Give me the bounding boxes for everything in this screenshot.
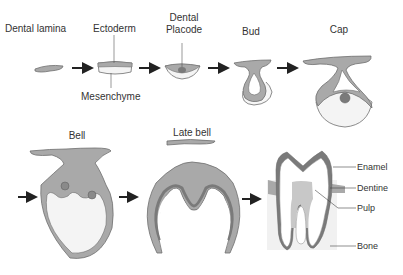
label-pulp: Pulp	[357, 202, 375, 214]
label-dental-placode-line2: Placode	[166, 24, 202, 36]
dental-lamina-shape	[35, 65, 63, 72]
label-bell: Bell	[69, 130, 86, 142]
label-bone: Bone	[357, 240, 378, 252]
tooth-shape	[267, 151, 345, 250]
label-ectoderm: Ectoderm	[93, 23, 136, 35]
label-mesenchyme: Mesenchyme	[81, 91, 140, 103]
label-dental-placode-line1: Dental	[170, 12, 199, 24]
bell-stage-shape	[30, 148, 113, 258]
ectoderm-stage-shape	[98, 35, 132, 88]
label-enamel: Enamel	[357, 161, 388, 173]
label-dentine: Dentine	[357, 182, 388, 194]
label-dental-lamina: Dental lamina	[5, 23, 66, 35]
dental-placode-shape	[165, 43, 200, 79]
bud-stage-shape	[234, 60, 272, 105]
label-cap: Cap	[330, 24, 348, 36]
late-bell-stage-shape	[147, 140, 240, 254]
label-late-bell: Late bell	[173, 127, 211, 139]
cap-stage-shape	[303, 56, 372, 127]
label-bud: Bud	[242, 26, 260, 38]
